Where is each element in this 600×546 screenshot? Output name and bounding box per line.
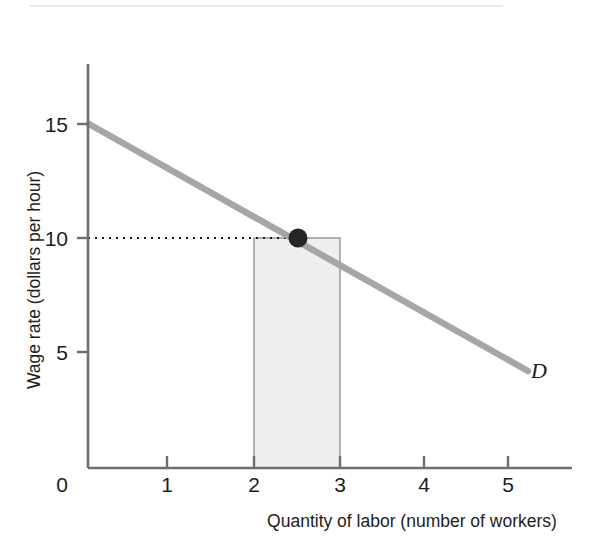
y-tick-label-5: 5	[56, 341, 68, 364]
figure-container: 15 10 5 0 1 2 3 4 5 D Wage rate (dollars…	[0, 0, 600, 546]
x-axis-tick-labels: 1 2 3 4 5	[161, 473, 514, 496]
x-tick-label-5: 5	[502, 473, 514, 496]
wage-rate-vs-quantity-of-labor-chart: 15 10 5 0 1 2 3 4 5 D Wage rate (dollars…	[0, 0, 600, 546]
x-tick-label-2: 2	[248, 473, 260, 496]
x-tick-label-4: 4	[418, 473, 430, 496]
marginal-revenue-product-rectangle	[254, 238, 340, 468]
x-tick-label-1: 1	[161, 473, 173, 496]
equilibrium-point	[289, 229, 308, 248]
y-axis-title: Wage rate (dollars per hour)	[24, 171, 44, 389]
x-axis-title: Quantity of labor (number of workers)	[267, 511, 557, 531]
y-tick-label-0: 0	[56, 473, 68, 496]
y-axis-ticks	[77, 124, 88, 352]
y-axis-tick-labels: 15 10 5 0	[45, 113, 68, 496]
y-tick-label-15: 15	[45, 113, 68, 136]
y-tick-label-10: 10	[45, 227, 68, 250]
demand-curve-label: D	[530, 358, 547, 383]
plot-area	[88, 124, 528, 468]
x-tick-label-3: 3	[334, 473, 346, 496]
